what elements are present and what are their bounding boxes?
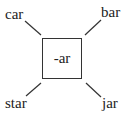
word-family-diagram: -ar car bar star jar — [0, 0, 128, 114]
center-label: -ar — [42, 38, 82, 79]
word-top-left: car — [5, 7, 23, 22]
word-bottom-right: jar — [102, 96, 118, 111]
word-bottom-left: star — [5, 96, 27, 111]
line-bottom-left — [26, 83, 41, 96]
word-top-right: bar — [101, 5, 120, 20]
line-top-left — [25, 21, 41, 35]
line-top-right — [85, 20, 101, 35]
line-bottom-right — [86, 83, 101, 97]
